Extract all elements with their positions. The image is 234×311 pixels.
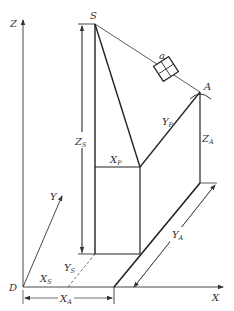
ya-dimension: YA bbox=[134, 185, 215, 287]
origin-label: D bbox=[8, 282, 17, 293]
geometry-diagram: Z X Y D S ZS XP a A Y bbox=[0, 0, 234, 311]
xp-label: XP bbox=[109, 154, 122, 167]
zs-dimension: ZS bbox=[74, 26, 95, 254]
ys-label: YS bbox=[64, 262, 76, 275]
xa-dimension: XA bbox=[23, 287, 114, 306]
target-label: A bbox=[203, 81, 211, 92]
yp-line bbox=[140, 92, 200, 167]
z-axis-label: Z bbox=[9, 18, 18, 29]
x-axis: X bbox=[23, 287, 223, 303]
detector-a bbox=[154, 57, 179, 82]
detector-label: a bbox=[159, 50, 165, 61]
za-label: ZA bbox=[201, 133, 214, 146]
xs-label: XS bbox=[39, 273, 52, 286]
projection-rectangle bbox=[95, 24, 140, 254]
z-axis: Z bbox=[9, 18, 23, 287]
x-axis-label: X bbox=[211, 292, 220, 303]
yp-label: YP bbox=[162, 116, 174, 129]
source-label: S bbox=[90, 10, 97, 21]
y-axis-label: Y bbox=[50, 191, 58, 202]
base-diagonal bbox=[114, 183, 200, 287]
ray-s-to-a bbox=[95, 24, 200, 92]
